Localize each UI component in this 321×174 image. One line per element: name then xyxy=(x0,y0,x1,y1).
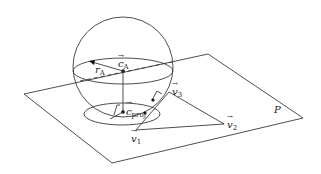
right-angle-marker xyxy=(114,105,120,115)
sphere-plane-diagram: cA → rA cproj → v1 → v2 → v3 → P xyxy=(0,0,321,174)
center-arrow: → xyxy=(118,52,124,60)
intersection-circle xyxy=(84,103,160,125)
projection-arrow: → xyxy=(126,99,132,107)
v2-arrow: → xyxy=(227,113,233,121)
label-plane: P xyxy=(273,104,281,115)
v1-arrow: → xyxy=(131,127,137,135)
plane-p xyxy=(24,54,303,163)
tangent-point-1 xyxy=(151,98,154,101)
v3-arrow: → xyxy=(172,80,178,88)
